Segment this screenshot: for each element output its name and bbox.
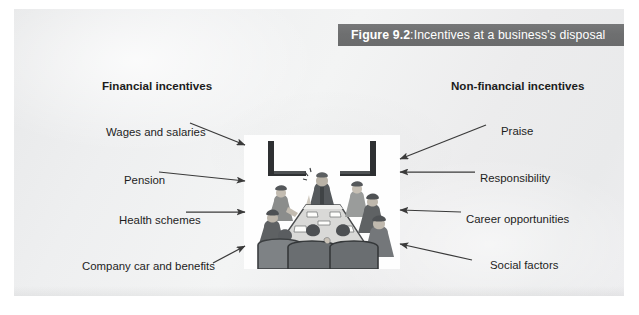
label-praise: Praise: [501, 125, 533, 137]
arrow-social-factors: [400, 244, 472, 260]
label-career-opportunities: Career opportunities: [466, 213, 569, 225]
label-wages-and-salaries: Wages and salaries: [106, 126, 206, 138]
label-responsibility: Responsibility: [480, 172, 550, 184]
non-financial-incentives-heading: Non-financial incentives: [451, 79, 584, 92]
boardroom-illustration: [244, 135, 400, 269]
label-social-factors: Social factors: [490, 259, 558, 271]
arrow-career-opportunities: [400, 210, 461, 212]
label-pension: Pension: [124, 174, 165, 186]
figure-panel: Figure 9.2: Incentives at a business's d…: [14, 9, 624, 296]
arrow-company-car-and-benefits: [213, 246, 245, 263]
figure-caption-bar: Figure 9.2: Incentives at a business's d…: [338, 24, 624, 46]
figure-caption-number: Figure 9.2: [351, 28, 410, 42]
label-company-car-and-benefits: Company car and benefits: [82, 260, 215, 272]
figure-page: Figure 9.2: Incentives at a business's d…: [0, 0, 639, 315]
arrow-pension: [159, 172, 245, 181]
boardroom-illustration-graphic: [244, 135, 400, 269]
financial-incentives-heading: Financial incentives: [102, 79, 212, 92]
label-health-schemes: Health schemes: [119, 214, 201, 226]
arrow-praise: [400, 125, 486, 159]
figure-caption-text: Incentives at a business's disposal: [414, 28, 606, 42]
